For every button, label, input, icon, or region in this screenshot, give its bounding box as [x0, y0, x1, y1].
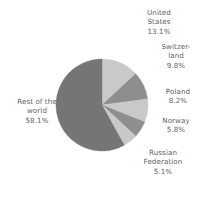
slice-value-russian-federation: 5.1% [131, 167, 195, 176]
slice-label-line: States [131, 17, 187, 26]
slice-label-line: Switzer- [148, 42, 204, 51]
slice-value-rest-of-the-world: 58.1% [4, 116, 70, 125]
slice-label-line: world [4, 106, 70, 115]
slice-label-line: United [131, 8, 187, 17]
pie-chart-figure: United States 13.1% Switzer- land 9.8% P… [0, 0, 209, 197]
slice-label-poland: Poland 8.2% [151, 87, 205, 106]
slice-label-line: Norway [148, 116, 204, 125]
slice-label-line: land [148, 51, 204, 60]
slice-label-united-states: United States 13.1% [131, 8, 187, 36]
slice-label-switzerland: Switzer- land 9.8% [148, 42, 204, 70]
slice-label-line: Russian [131, 148, 195, 157]
slice-value-poland: 8.2% [151, 96, 205, 105]
slice-label-rest-of-the-world: Rest of the world 58.1% [4, 97, 70, 125]
slice-label-line: Poland [151, 87, 205, 96]
slice-value-united-states: 13.1% [131, 27, 187, 36]
slice-value-norway: 5.8% [148, 125, 204, 134]
slice-label-line: Federation [131, 157, 195, 166]
slice-value-switzerland: 9.8% [148, 61, 204, 70]
slice-label-norway: Norway 5.8% [148, 116, 204, 135]
slice-label-russian-federation: Russian Federation 5.1% [131, 148, 195, 176]
slice-label-line: Rest of the [4, 97, 70, 106]
